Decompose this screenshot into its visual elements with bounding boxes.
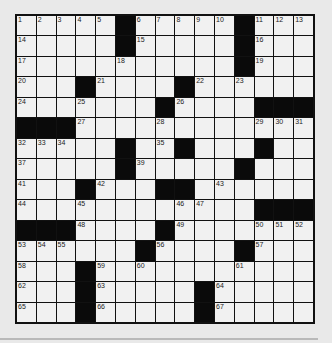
grid-cell[interactable] [235,221,254,240]
grid-cell[interactable] [116,98,135,117]
grid-cell[interactable] [274,282,293,301]
grid-cell[interactable]: 19 [255,57,274,76]
grid-cell[interactable] [136,139,155,158]
grid-cell[interactable] [175,241,194,260]
grid-cell[interactable] [215,139,234,158]
grid-cell[interactable] [294,139,313,158]
grid-cell[interactable] [57,282,76,301]
grid-cell[interactable] [195,241,214,260]
grid-cell[interactable]: 33 [37,139,56,158]
grid-cell[interactable] [294,241,313,260]
grid-cell[interactable] [37,159,56,178]
grid-cell[interactable] [294,159,313,178]
grid-cell[interactable]: 57 [255,241,274,260]
grid-cell[interactable]: 3 [57,16,76,35]
grid-cell[interactable] [175,303,194,322]
grid-cell[interactable] [156,200,175,219]
grid-cell[interactable]: 44 [17,200,36,219]
grid-cell[interactable]: 16 [255,36,274,55]
grid-cell[interactable] [136,282,155,301]
grid-cell[interactable]: 2 [37,16,56,35]
grid-cell[interactable]: 29 [255,118,274,137]
grid-cell[interactable] [175,159,194,178]
grid-cell[interactable]: 66 [96,303,115,322]
grid-cell[interactable] [136,77,155,96]
grid-cell[interactable] [215,159,234,178]
grid-cell[interactable]: 4 [76,16,95,35]
grid-cell[interactable] [175,262,194,281]
grid-cell[interactable] [294,262,313,281]
grid-cell[interactable] [96,98,115,117]
grid-cell[interactable]: 45 [76,200,95,219]
grid-cell[interactable] [136,221,155,240]
grid-cell[interactable] [274,159,293,178]
grid-cell[interactable] [175,118,194,137]
grid-cell[interactable]: 42 [96,180,115,199]
grid-cell[interactable]: 51 [274,221,293,240]
grid-cell[interactable] [175,282,194,301]
grid-cell[interactable] [294,180,313,199]
grid-cell[interactable]: 55 [57,241,76,260]
grid-cell[interactable]: 63 [96,282,115,301]
grid-cell[interactable]: 43 [215,180,234,199]
grid-cell[interactable] [96,118,115,137]
grid-cell[interactable] [76,159,95,178]
grid-cell[interactable]: 35 [156,139,175,158]
grid-cell[interactable]: 47 [195,200,214,219]
grid-cell[interactable] [136,118,155,137]
grid-cell[interactable] [215,36,234,55]
grid-cell[interactable] [274,180,293,199]
grid-cell[interactable]: 60 [136,262,155,281]
grid-cell[interactable] [156,282,175,301]
grid-cell[interactable]: 9 [195,16,214,35]
grid-cell[interactable] [294,77,313,96]
grid-cell[interactable] [136,98,155,117]
grid-cell[interactable] [96,241,115,260]
grid-cell[interactable] [274,77,293,96]
grid-cell[interactable]: 50 [255,221,274,240]
grid-cell[interactable]: 65 [17,303,36,322]
grid-cell[interactable] [37,262,56,281]
grid-cell[interactable] [294,57,313,76]
grid-cell[interactable]: 58 [17,262,36,281]
grid-cell[interactable] [235,282,254,301]
grid-cell[interactable] [255,159,274,178]
grid-cell[interactable]: 10 [215,16,234,35]
grid-cell[interactable]: 22 [195,77,214,96]
grid-cell[interactable]: 49 [175,221,194,240]
grid-cell[interactable] [136,200,155,219]
grid-cell[interactable]: 41 [17,180,36,199]
grid-cell[interactable] [116,77,135,96]
grid-cell[interactable]: 12 [274,16,293,35]
grid-cell[interactable]: 37 [17,159,36,178]
grid-cell[interactable] [96,200,115,219]
grid-cell[interactable] [76,241,95,260]
grid-cell[interactable] [274,303,293,322]
grid-cell[interactable] [156,262,175,281]
grid-cell[interactable] [136,57,155,76]
grid-cell[interactable]: 7 [156,16,175,35]
grid-cell[interactable] [156,77,175,96]
grid-cell[interactable] [255,303,274,322]
grid-cell[interactable] [215,77,234,96]
grid-cell[interactable]: 28 [156,118,175,137]
grid-cell[interactable]: 13 [294,16,313,35]
grid-cell[interactable] [215,221,234,240]
grid-cell[interactable] [195,262,214,281]
grid-cell[interactable] [37,98,56,117]
grid-cell[interactable] [274,57,293,76]
grid-cell[interactable]: 39 [136,159,155,178]
grid-cell[interactable]: 32 [17,139,36,158]
grid-cell[interactable] [175,57,194,76]
grid-cell[interactable] [57,180,76,199]
grid-cell[interactable] [116,303,135,322]
grid-cell[interactable]: 17 [17,57,36,76]
grid-cell[interactable] [294,36,313,55]
grid-cell[interactable]: 18 [116,57,135,76]
grid-cell[interactable] [255,262,274,281]
grid-cell[interactable]: 59 [96,262,115,281]
grid-cell[interactable] [274,36,293,55]
grid-cell[interactable] [57,200,76,219]
grid-cell[interactable]: 48 [76,221,95,240]
grid-cell[interactable] [195,57,214,76]
